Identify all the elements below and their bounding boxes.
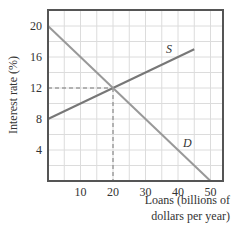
x-axis-label-line-1: Loans (billions of <box>145 193 230 207</box>
grid-lines <box>48 10 223 181</box>
y-tick-label: 8 <box>36 112 42 126</box>
x-axis-label-line-2: dollars per year) <box>151 209 230 223</box>
plot-frame <box>48 10 223 181</box>
y-tick-label: 12 <box>30 81 42 95</box>
curve-s <box>48 49 194 119</box>
y-tick-label: 16 <box>30 50 42 64</box>
x-tick-label: 10 <box>75 185 87 199</box>
x-tick-label: 20 <box>107 185 119 199</box>
curve-label-s: S <box>166 42 172 56</box>
loanable-funds-chart: SD 48121620 1020304050 Interest rate (%)… <box>0 0 232 229</box>
curve-label-d: D <box>182 136 192 150</box>
y-tick-label: 4 <box>36 143 42 157</box>
y-tick-label: 20 <box>30 19 42 33</box>
y-axis-label: Interest rate (%) <box>6 56 20 134</box>
y-axis-ticks: 48121620 <box>30 19 42 157</box>
